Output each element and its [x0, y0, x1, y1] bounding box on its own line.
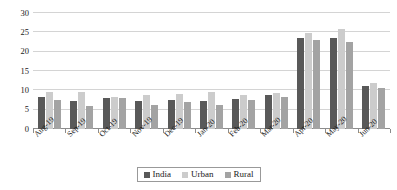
bar-group-sep-19	[65, 13, 97, 129]
legend-item-rural[interactable]: Rural	[225, 170, 254, 179]
x-tick-11	[390, 129, 391, 133]
legend-swatch-india	[144, 172, 150, 178]
bar-india-apr-20	[297, 38, 304, 129]
bar-group-dec-19	[163, 13, 195, 129]
legend-label-urban: Urban	[191, 170, 214, 179]
bar-group-nov-19	[130, 13, 162, 129]
bar-rural-oct-19	[119, 98, 126, 129]
chart-legend: IndiaUrbanRural	[137, 167, 261, 182]
y-tick-label-10: 10	[21, 86, 30, 95]
y-tick-label-0: 0	[25, 124, 29, 133]
y-tick-label-30: 30	[21, 8, 30, 17]
bar-rural-sep-19	[86, 106, 93, 129]
bar-chart: 051015202530 Aug-19Sep-19Oct-19Nov-19Dec…	[0, 0, 397, 190]
bar-group-jan-20	[195, 13, 227, 129]
bars-layer	[33, 13, 390, 129]
y-tick-label-15: 15	[21, 66, 30, 75]
plot-area: 051015202530	[33, 13, 390, 129]
legend-label-india: India	[153, 170, 172, 179]
bar-rural-apr-20	[313, 40, 320, 129]
bar-group-oct-19	[98, 13, 130, 129]
bar-rural-feb-20	[248, 100, 255, 129]
bar-rural-dec-19	[184, 102, 191, 129]
x-axis-labels: Aug-19Sep-19Oct-19Nov-19Dec-19Jan-20Feb-…	[33, 133, 390, 165]
bar-group-jun-20	[358, 13, 390, 129]
bar-rural-aug-19	[54, 100, 61, 129]
legend-swatch-urban	[182, 172, 188, 178]
bar-rural-may-20	[346, 42, 353, 129]
bar-group-may-20	[325, 13, 357, 129]
legend-item-india[interactable]: India	[144, 170, 172, 179]
bar-rural-mar-20	[281, 97, 288, 129]
bar-group-feb-20	[228, 13, 260, 129]
bar-rural-nov-19	[151, 105, 158, 129]
legend-swatch-rural	[225, 172, 231, 178]
legend-item-urban[interactable]: Urban	[182, 170, 214, 179]
bar-group-aug-19	[33, 13, 65, 129]
y-tick-label-20: 20	[21, 47, 30, 56]
bar-india-may-20	[330, 38, 337, 129]
bar-group-mar-20	[260, 13, 292, 129]
y-tick-label-25: 25	[21, 28, 30, 37]
bar-urban-apr-20	[305, 33, 312, 129]
legend-label-rural: Rural	[234, 170, 254, 179]
bar-group-apr-20	[293, 13, 325, 129]
y-tick-label-5: 5	[25, 105, 29, 114]
bar-rural-jan-20	[216, 105, 223, 129]
